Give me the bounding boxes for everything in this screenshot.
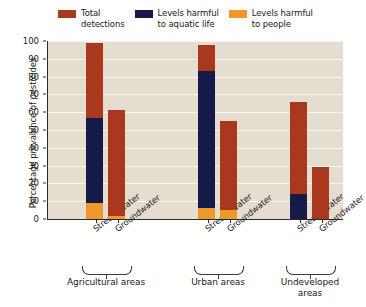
- x-axis-tick-mark: [230, 219, 231, 223]
- legend-item-harmful-people: Levels harmful to people: [229, 8, 313, 29]
- y-axis-tick-label: 40: [28, 143, 39, 153]
- y-axis-tick-label: 20: [28, 178, 39, 188]
- x-axis-tick-mark: [300, 219, 301, 223]
- y-axis-tick-mark: [43, 94, 46, 95]
- y-axis-tick-label: 90: [28, 54, 39, 64]
- plot-area: [48, 41, 343, 219]
- group-brace: [286, 266, 336, 275]
- y-axis-ticks: 0102030405060708090100: [17, 41, 43, 219]
- y-axis-tick-label: 100: [23, 36, 39, 46]
- y-axis-tick-label: 60: [28, 107, 39, 117]
- legend-label-total-detections: Total detections: [81, 8, 125, 29]
- y-axis-tick-label: 10: [28, 196, 39, 206]
- x-axis-tick-mark: [118, 219, 119, 223]
- y-axis-tick-mark: [43, 58, 46, 59]
- bar-segment: [312, 167, 329, 219]
- bar-segment: [108, 110, 125, 219]
- x-axis-tick-mark: [208, 219, 209, 223]
- y-axis-tick-label: 0: [34, 214, 39, 224]
- y-axis-tick-mark: [43, 130, 46, 131]
- group-brace-stem: [310, 274, 311, 279]
- legend-swatch-harmful-aquatic-life: [135, 10, 153, 18]
- y-axis-tick-mark: [43, 201, 46, 202]
- group-brace-stem: [218, 274, 219, 279]
- bar-0: [86, 41, 103, 219]
- group-brace: [82, 266, 132, 275]
- legend-item-harmful-aquatic-life: Levels harmful to aquatic life: [135, 8, 219, 29]
- y-axis-tick-label: 80: [28, 72, 39, 82]
- bar-segment: [198, 71, 215, 219]
- legend-swatch-harmful-people: [229, 10, 247, 18]
- y-axis-tick-mark: [43, 112, 46, 113]
- bar-segment: [220, 121, 237, 219]
- y-axis-tick-mark: [43, 183, 46, 184]
- plot-area-wrapper: 0102030405060708090100: [47, 41, 343, 219]
- bar-segment: [198, 208, 215, 219]
- legend-label-harmful-people: Levels harmful to people: [252, 8, 313, 29]
- group-label: Agricultural areas: [51, 277, 161, 288]
- y-axis-tick-mark: [43, 76, 46, 77]
- legend-item-total-detections: Total detections: [58, 8, 125, 29]
- group-brace-stem: [106, 274, 107, 279]
- bar-1: [108, 41, 125, 219]
- y-axis-tick-label: 70: [28, 89, 39, 99]
- chart-legend: Total detections Levels harmful to aquat…: [58, 8, 346, 38]
- group-brace: [194, 266, 244, 275]
- group-label: Undeveloped areas: [267, 277, 353, 299]
- y-axis-tick-mark: [43, 41, 46, 42]
- y-axis-tick-mark: [43, 219, 46, 220]
- x-axis-tick-mark: [96, 219, 97, 223]
- y-axis-tick-mark: [43, 165, 46, 166]
- bar-3: [220, 41, 237, 219]
- group-label: Urban areas: [168, 277, 268, 288]
- y-axis-tick-label: 50: [28, 125, 39, 135]
- bar-segment: [86, 203, 103, 219]
- bar-segment: [290, 194, 307, 219]
- legend-swatch-total-detections: [58, 10, 76, 18]
- bar-5: [312, 41, 329, 219]
- x-axis-tick-mark: [322, 219, 323, 223]
- y-axis-tick-label: 30: [28, 161, 39, 171]
- bar-segment: [108, 216, 125, 219]
- y-axis-tick-mark: [43, 147, 46, 148]
- bar-segment: [220, 210, 237, 219]
- bar-2: [198, 41, 215, 219]
- legend-label-harmful-aquatic-life: Levels harmful to aquatic life: [158, 8, 219, 29]
- bar-4: [290, 41, 307, 219]
- x-axis-tick-marks: [48, 219, 344, 225]
